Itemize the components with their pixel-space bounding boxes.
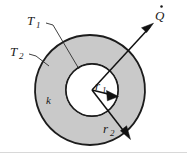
label-r2-subscript: 2 bbox=[110, 128, 115, 138]
label-qdot: Q bbox=[155, 5, 165, 23]
label-qdot-symbol: Q bbox=[155, 8, 165, 23]
label-t2-symbol: T bbox=[10, 44, 18, 59]
diagram-canvas: T 1 T 2 k r 1 r 2 Q bbox=[0, 0, 187, 162]
label-r1-subscript: 1 bbox=[102, 85, 107, 95]
qdot-overdot-icon bbox=[160, 5, 163, 8]
label-t1-symbol: T bbox=[27, 13, 35, 28]
cylindrical-shell-diagram: T 1 T 2 k r 1 r 2 Q bbox=[0, 0, 187, 162]
label-t2: T 2 bbox=[10, 44, 24, 61]
heat-flow-arrowhead bbox=[142, 23, 154, 32]
label-t1: T 1 bbox=[27, 13, 41, 30]
label-t2-subscript: 2 bbox=[19, 51, 24, 61]
label-t1-subscript: 1 bbox=[36, 20, 41, 30]
